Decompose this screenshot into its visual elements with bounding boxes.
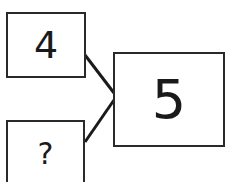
- part-box-bottom: ?: [6, 120, 85, 182]
- whole-value: 5: [152, 68, 186, 131]
- part-box-top: 4: [6, 12, 86, 78]
- part-value-top: 4: [34, 23, 58, 67]
- whole-box: 5: [113, 52, 225, 147]
- connector-top: [85, 55, 114, 93]
- part-value-bottom: ?: [38, 136, 54, 171]
- connector-bottom: [85, 100, 114, 142]
